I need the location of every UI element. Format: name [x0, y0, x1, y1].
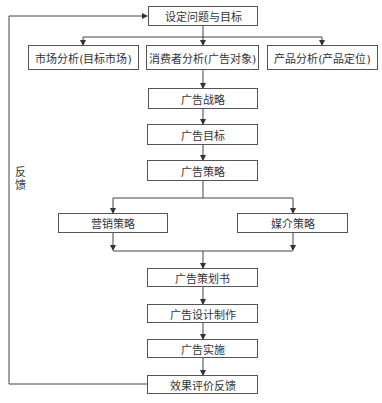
node-evaluation-feedback: 效果评价反馈 — [147, 375, 258, 394]
node-ad-implementation: 广告实施 — [147, 339, 258, 358]
node-consumer-analysis: 消费者分析(广告对象) — [146, 45, 259, 70]
node-ad-tactics: 广告策略 — [147, 160, 258, 181]
node-ad-design: 广告设计制作 — [147, 304, 258, 323]
node-marketing-strategy: 营销策略 — [58, 213, 168, 233]
node-ad-strategy: 广告战略 — [148, 88, 258, 109]
feedback-label: 反馈 — [15, 166, 27, 192]
node-market-analysis: 市场分析(目标市场) — [28, 45, 139, 70]
node-media-strategy: 媒介策略 — [237, 213, 348, 233]
node-product-analysis: 产品分析(产品定位) — [267, 45, 378, 70]
node-ad-goal: 广告目标 — [147, 124, 258, 145]
node-start: 设定问题与目标 — [148, 6, 258, 26]
node-ad-plan: 广告策划书 — [147, 268, 258, 287]
